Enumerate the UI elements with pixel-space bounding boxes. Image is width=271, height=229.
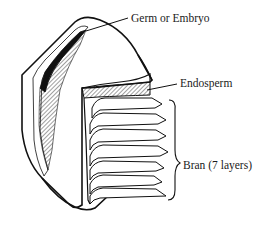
- wheat-kernel-diagram: Germ or Embryo Endosperm Bran (7 layers): [0, 0, 271, 229]
- endosperm-region: [82, 82, 150, 98]
- bran-layers: [90, 98, 168, 204]
- bran-brace: [168, 100, 180, 200]
- kernel-illustration: [0, 0, 271, 229]
- germ-label: Germ or Embryo: [131, 13, 210, 25]
- endosperm-label: Endosperm: [180, 78, 232, 90]
- bran-label: Bran (7 layers): [183, 160, 252, 172]
